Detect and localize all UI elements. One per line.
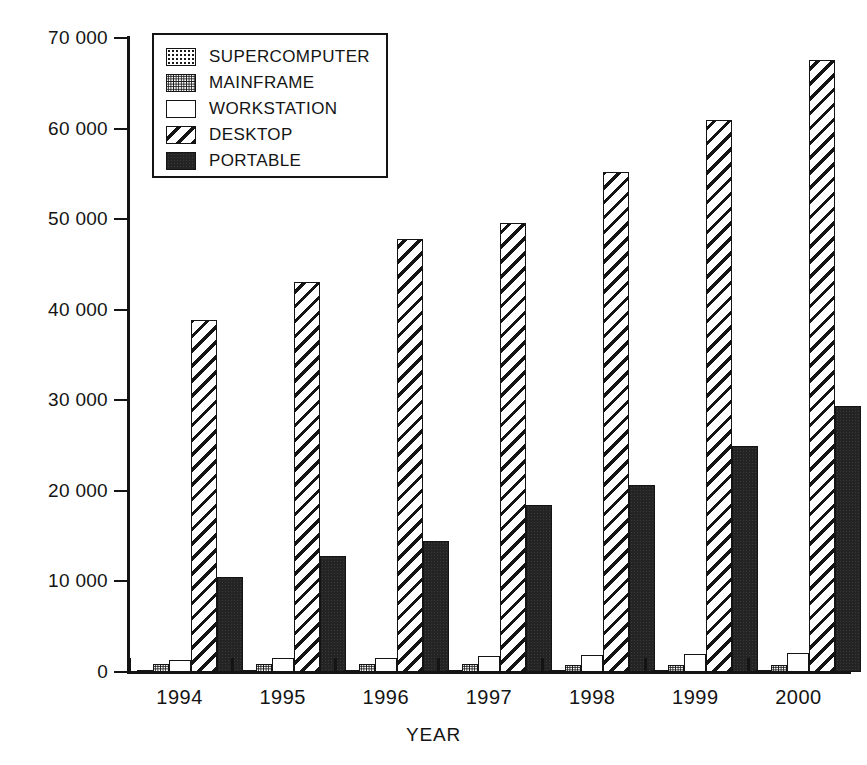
- y-axis-tick-label: 10 000: [4, 570, 108, 592]
- legend-label-desktop: DESKTOP: [209, 125, 293, 145]
- bar-portable-2000: [835, 406, 861, 672]
- x-axis-tick-label-1998: 1998: [569, 686, 616, 709]
- legend-label-mainframe: MAINFRAME: [209, 73, 315, 93]
- legend-swatch-desktop: [166, 126, 196, 144]
- legend-swatch-workstation: [166, 100, 196, 118]
- x-axis-tick: [334, 658, 337, 672]
- legend-label-portable: PORTABLE: [209, 151, 301, 171]
- bar-workstation-1994: [169, 660, 191, 672]
- bar-supercomputer-1994: [137, 670, 153, 672]
- legend-item-desktop: DESKTOP: [166, 122, 386, 148]
- bar-portable-1995: [320, 556, 346, 672]
- legend-swatch-portable: [166, 152, 196, 170]
- bar-portable-1998: [629, 485, 655, 672]
- x-axis-tick: [437, 658, 440, 672]
- x-axis-tick-label-1999: 1999: [672, 686, 719, 709]
- bar-supercomputer-1999: [652, 670, 668, 672]
- bar-supercomputer-1996: [343, 670, 359, 672]
- bar-supercomputer-1998: [549, 670, 565, 672]
- bar-desktop-1994: [191, 320, 217, 672]
- legend-item-supercomputer: SUPERCOMPUTER: [166, 44, 386, 70]
- x-axis-tick: [541, 658, 544, 672]
- y-axis-tick-label: 50 000: [4, 208, 108, 230]
- bar-group-2000: [755, 38, 841, 672]
- x-axis-tick: [231, 658, 234, 672]
- bar-desktop-1995: [294, 282, 320, 672]
- bar-desktop-1998: [603, 172, 629, 672]
- y-axis-tick: [114, 399, 128, 401]
- bar-workstation-1997: [478, 656, 500, 672]
- bar-portable-1997: [526, 505, 552, 672]
- bar-group-1999: [652, 38, 738, 672]
- x-axis-tick: [747, 658, 750, 672]
- bar-desktop-2000: [809, 60, 835, 672]
- bar-group-1997: [446, 38, 532, 672]
- bar-workstation-1998: [581, 655, 603, 672]
- bar-supercomputer-2000: [755, 670, 771, 672]
- y-axis-tick-label: 20 000: [4, 480, 108, 502]
- bar-mainframe-2000: [771, 665, 787, 672]
- y-axis-tick-label: 0: [4, 661, 108, 683]
- bar-chart: K UNITS 010 00020 00030 00040 00050 0006…: [0, 0, 867, 765]
- y-axis-tick: [114, 490, 128, 492]
- bar-supercomputer-1995: [240, 670, 256, 672]
- bar-workstation-2000: [787, 653, 809, 672]
- bar-workstation-1996: [375, 658, 397, 672]
- legend-swatch-mainframe: [166, 74, 196, 92]
- bar-mainframe-1999: [668, 665, 684, 672]
- y-axis-tick: [114, 128, 128, 130]
- x-axis-tick: [128, 658, 131, 672]
- legend-item-portable: PORTABLE: [166, 148, 386, 174]
- y-axis-tick-label: 60 000: [4, 118, 108, 140]
- bar-portable-1994: [217, 577, 243, 672]
- legend-label-workstation: WORKSTATION: [209, 99, 337, 119]
- y-axis-tick: [114, 218, 128, 220]
- legend-label-supercomputer: SUPERCOMPUTER: [209, 47, 370, 67]
- bar-desktop-1997: [500, 223, 526, 672]
- bar-portable-1999: [732, 446, 758, 672]
- legend-item-workstation: WORKSTATION: [166, 96, 386, 122]
- bar-mainframe-1998: [565, 665, 581, 672]
- y-axis-tick: [114, 309, 128, 311]
- y-axis-tick: [114, 580, 128, 582]
- bar-supercomputer-1997: [446, 670, 462, 672]
- y-axis-tick-label: 70 000: [4, 27, 108, 49]
- y-axis-tick-label: 30 000: [4, 389, 108, 411]
- x-axis-tick-label-1994: 1994: [156, 686, 203, 709]
- x-axis-tick: [644, 658, 647, 672]
- bar-desktop-1999: [706, 120, 732, 672]
- bar-workstation-1999: [684, 654, 706, 672]
- bar-mainframe-1996: [359, 664, 375, 672]
- y-axis-tick: [114, 671, 128, 673]
- bar-mainframe-1997: [462, 664, 478, 672]
- bar-desktop-1996: [397, 239, 423, 672]
- bar-group-1998: [549, 38, 635, 672]
- legend-swatch-supercomputer: [166, 48, 196, 66]
- x-axis-tick-label-1996: 1996: [363, 686, 410, 709]
- y-axis-tick-label: 40 000: [4, 299, 108, 321]
- bar-workstation-1995: [272, 658, 294, 672]
- x-axis-title: YEAR: [0, 724, 867, 746]
- bar-portable-1996: [423, 541, 449, 672]
- bar-mainframe-1994: [153, 664, 169, 672]
- legend-item-mainframe: MAINFRAME: [166, 70, 386, 96]
- x-axis-tick-label-1997: 1997: [466, 686, 513, 709]
- legend: SUPERCOMPUTERMAINFRAMEWORKSTATIONDESKTOP…: [152, 33, 388, 178]
- bar-mainframe-1995: [256, 664, 272, 672]
- x-axis-tick-label-2000: 2000: [775, 686, 822, 709]
- y-axis-tick: [114, 37, 128, 39]
- x-axis-tick-label-1995: 1995: [259, 686, 306, 709]
